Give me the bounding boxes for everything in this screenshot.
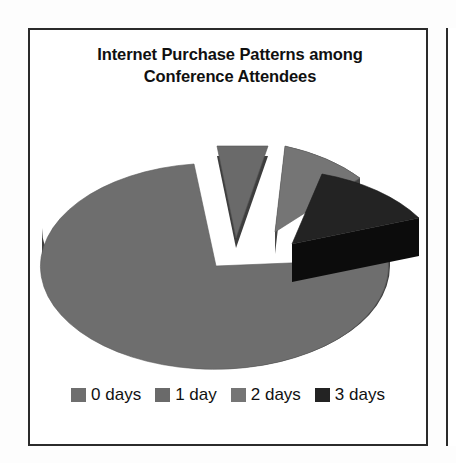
legend-label-3-days: 3 days [335, 386, 385, 403]
legend-item-0-days[interactable]: 0 days [71, 386, 141, 403]
pie-chart-graphic [30, 116, 426, 372]
legend-item-3-days[interactable]: 3 days [315, 386, 385, 403]
legend-label-0-days: 0 days [91, 386, 141, 403]
legend-item-2-days[interactable]: 2 days [231, 386, 301, 403]
legend-swatch-1-day-icon [155, 388, 170, 402]
legend-swatch-2-days-icon [231, 388, 246, 402]
chart-title: Internet Purchase Patterns among Confere… [44, 44, 416, 88]
adjacent-panel-edge [446, 28, 456, 446]
chart-title-line-2: Conference Attendees [44, 66, 416, 88]
legend-swatch-3-days-icon [315, 388, 330, 402]
legend-label-1-day: 1 day [175, 386, 217, 403]
legend-swatch-0-days-icon [71, 388, 86, 402]
legend-label-2-days: 2 days [251, 386, 301, 403]
legend-item-1-day[interactable]: 1 day [155, 386, 217, 403]
pie-chart-plot-area [30, 116, 426, 372]
chart-legend: 0 days 1 day 2 days 3 days [30, 386, 426, 403]
chart-title-line-1: Internet Purchase Patterns among [44, 44, 416, 66]
chart-panel: Internet Purchase Patterns among Confere… [28, 28, 428, 446]
scanned-page-background: Internet Purchase Patterns among Confere… [0, 0, 456, 463]
pie-slice-1-day [217, 146, 268, 248]
